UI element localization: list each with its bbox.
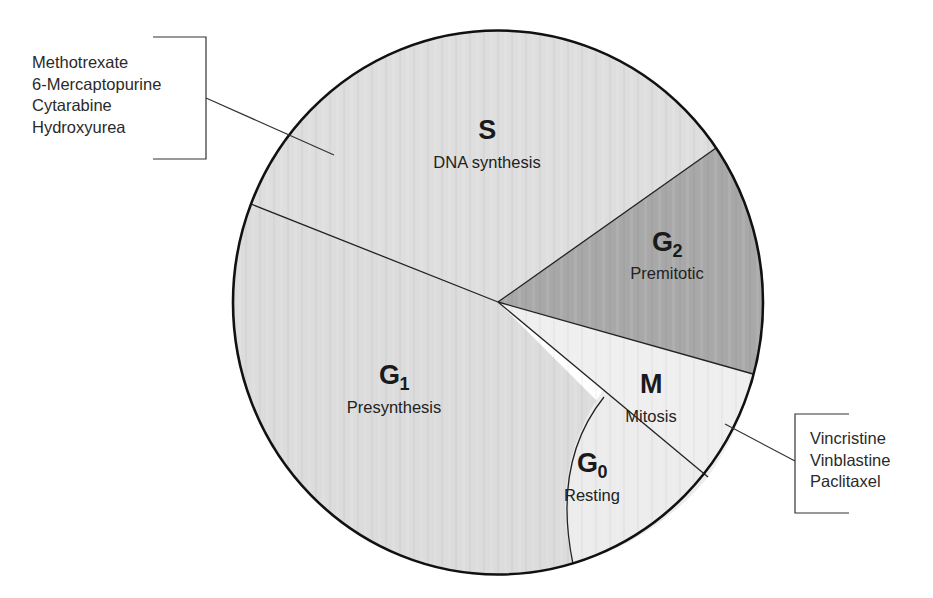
phase-subscript: 2 [672, 241, 682, 261]
phase-label-g0: G0 Resting [564, 449, 620, 505]
phase-label-g1: G1 Presynthesis [347, 361, 441, 417]
drug-item: Cytarabine [32, 95, 161, 117]
drug-item: Hydroxyurea [32, 117, 161, 139]
phase-symbol: S [478, 115, 496, 145]
phase-label-s: S DNA synthesis [433, 116, 540, 172]
m-phase-drug-list: Vincristine Vinblastine Paclitaxel [810, 428, 890, 493]
drug-item: Vinblastine [810, 450, 890, 472]
phase-symbol: G [577, 448, 598, 478]
phase-description: Presynthesis [347, 397, 441, 417]
phase-label-m: M Mitosis [625, 370, 676, 426]
phase-symbol: G [379, 360, 400, 390]
phase-description: Resting [564, 485, 620, 505]
phase-label-g2: G2 Premitotic [630, 228, 703, 283]
phase-description: DNA synthesis [433, 152, 540, 172]
drug-item: 6-Mercaptopurine [32, 74, 161, 96]
phase-subscript: 0 [597, 462, 607, 482]
phase-symbol: M [640, 369, 662, 399]
phase-symbol: G [652, 227, 673, 257]
phase-description: Premitotic [630, 263, 703, 283]
s-phase-drug-list: Methotrexate 6-Mercaptopurine Cytarabine… [32, 52, 161, 138]
phase-subscript: 1 [400, 374, 410, 394]
drug-item: Methotrexate [32, 52, 161, 74]
drug-item: Paclitaxel [810, 471, 890, 493]
drug-item: Vincristine [810, 428, 890, 450]
phase-description: Mitosis [625, 406, 676, 426]
